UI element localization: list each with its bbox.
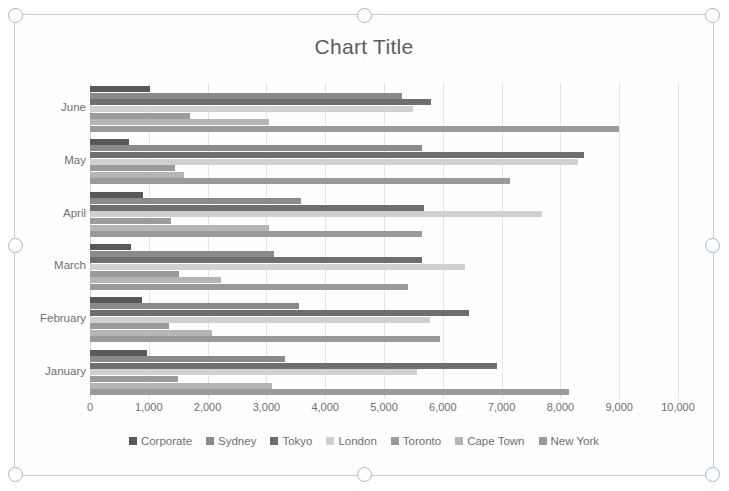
category-label-may: May bbox=[16, 154, 86, 166]
bar-london[interactable] bbox=[90, 369, 417, 375]
value-tick-label: 2,000 bbox=[194, 401, 222, 413]
plot-area[interactable] bbox=[90, 83, 678, 399]
bar-toronto[interactable] bbox=[90, 271, 179, 277]
bar-toronto[interactable] bbox=[90, 113, 190, 119]
bar-tokyo[interactable] bbox=[90, 152, 584, 158]
value-tick-label: 4,000 bbox=[311, 401, 339, 413]
bar-london[interactable] bbox=[90, 211, 542, 217]
resize-handle-bottom-center[interactable] bbox=[357, 467, 372, 482]
bar-tokyo[interactable] bbox=[90, 257, 422, 263]
category-label-march: March bbox=[16, 259, 86, 271]
chart-object[interactable]: Chart Title JuneMayAprilMarchFebruaryJan… bbox=[14, 14, 714, 476]
category-label-january: January bbox=[16, 365, 86, 377]
value-tick-label: 6,000 bbox=[429, 401, 457, 413]
value-axis[interactable]: 01,0002,0003,0004,0005,0006,0007,0008,00… bbox=[90, 401, 678, 421]
bar-new-york[interactable] bbox=[90, 389, 569, 395]
legend-swatch-icon bbox=[326, 437, 334, 445]
legend-swatch-icon bbox=[455, 437, 463, 445]
bar-toronto[interactable] bbox=[90, 376, 178, 382]
legend-label: New York bbox=[551, 435, 600, 447]
bar-new-york[interactable] bbox=[90, 336, 440, 342]
legend-swatch-icon bbox=[539, 437, 547, 445]
resize-handle-top-center[interactable] bbox=[357, 8, 372, 23]
legend-label: Corporate bbox=[141, 435, 192, 447]
legend-label: Cape Town bbox=[467, 435, 524, 447]
bar-new-york[interactable] bbox=[90, 284, 408, 290]
bar-corporate[interactable] bbox=[90, 297, 142, 303]
legend-item-new-york[interactable]: New York bbox=[539, 435, 600, 447]
legend-swatch-icon bbox=[129, 437, 137, 445]
value-tick-label: 10,000 bbox=[661, 401, 695, 413]
value-tick-label: 9,000 bbox=[605, 401, 633, 413]
legend-swatch-icon bbox=[391, 437, 399, 445]
bar-group bbox=[90, 83, 678, 136]
legend-item-toronto[interactable]: Toronto bbox=[391, 435, 441, 447]
bar-london[interactable] bbox=[90, 106, 413, 112]
bar-cape-town[interactable] bbox=[90, 119, 269, 125]
bar-corporate[interactable] bbox=[90, 192, 143, 198]
resize-handle-middle-right[interactable] bbox=[705, 238, 720, 253]
legend-item-corporate[interactable]: Corporate bbox=[129, 435, 192, 447]
bar-sydney[interactable] bbox=[90, 93, 402, 99]
value-tick-label: 5,000 bbox=[370, 401, 398, 413]
category-label-february: February bbox=[16, 312, 86, 324]
bar-cape-town[interactable] bbox=[90, 225, 269, 231]
bar-sydney[interactable] bbox=[90, 251, 274, 257]
bar-toronto[interactable] bbox=[90, 323, 169, 329]
category-axis[interactable]: JuneMayAprilMarchFebruaryJanuary bbox=[15, 83, 86, 399]
bar-london[interactable] bbox=[90, 317, 430, 323]
bar-group bbox=[90, 294, 678, 347]
legend-label: London bbox=[338, 435, 376, 447]
bar-group bbox=[90, 136, 678, 189]
legend-label: Toronto bbox=[403, 435, 441, 447]
bar-corporate[interactable] bbox=[90, 244, 131, 250]
bar-group bbox=[90, 188, 678, 241]
bar-corporate[interactable] bbox=[90, 139, 129, 145]
value-tick-label: 3,000 bbox=[253, 401, 281, 413]
value-tick-label: 7,000 bbox=[488, 401, 516, 413]
category-label-june: June bbox=[16, 101, 86, 113]
legend-item-tokyo[interactable]: Tokyo bbox=[270, 435, 312, 447]
category-label-april: April bbox=[16, 207, 86, 219]
bar-london[interactable] bbox=[90, 159, 578, 165]
bar-corporate[interactable] bbox=[90, 86, 150, 92]
bar-sydney[interactable] bbox=[90, 356, 285, 362]
legend-label: Tokyo bbox=[282, 435, 312, 447]
bar-toronto[interactable] bbox=[90, 165, 175, 171]
bar-new-york[interactable] bbox=[90, 231, 422, 237]
value-tick-label: 0 bbox=[87, 401, 93, 413]
bar-sydney[interactable] bbox=[90, 198, 301, 204]
chart-title[interactable]: Chart Title bbox=[15, 35, 713, 59]
bar-cape-town[interactable] bbox=[90, 172, 184, 178]
resize-handle-bottom-right[interactable] bbox=[705, 467, 720, 482]
legend-swatch-icon bbox=[270, 437, 278, 445]
resize-handle-top-left[interactable] bbox=[8, 8, 23, 23]
bar-tokyo[interactable] bbox=[90, 205, 424, 211]
bar-tokyo[interactable] bbox=[90, 363, 497, 369]
value-tick-label: 1,000 bbox=[135, 401, 163, 413]
bar-toronto[interactable] bbox=[90, 218, 171, 224]
bar-london[interactable] bbox=[90, 264, 465, 270]
bar-sydney[interactable] bbox=[90, 303, 299, 309]
chart-legend[interactable]: CorporateSydneyTokyoLondonTorontoCape To… bbox=[15, 435, 713, 447]
legend-item-cape-town[interactable]: Cape Town bbox=[455, 435, 524, 447]
bar-new-york[interactable] bbox=[90, 178, 510, 184]
bar-cape-town[interactable] bbox=[90, 277, 221, 283]
bar-sydney[interactable] bbox=[90, 145, 422, 151]
resize-handle-top-right[interactable] bbox=[705, 8, 720, 23]
legend-swatch-icon bbox=[206, 437, 214, 445]
legend-label: Sydney bbox=[218, 435, 256, 447]
resize-handle-middle-left[interactable] bbox=[8, 238, 23, 253]
value-tick-label: 8,000 bbox=[547, 401, 575, 413]
bar-tokyo[interactable] bbox=[90, 310, 469, 316]
legend-item-sydney[interactable]: Sydney bbox=[206, 435, 256, 447]
legend-item-london[interactable]: London bbox=[326, 435, 376, 447]
bar-new-york[interactable] bbox=[90, 126, 619, 132]
bar-cape-town[interactable] bbox=[90, 383, 272, 389]
bar-group bbox=[90, 241, 678, 294]
gridline bbox=[678, 83, 679, 399]
bar-cape-town[interactable] bbox=[90, 330, 212, 336]
bar-corporate[interactable] bbox=[90, 350, 147, 356]
bar-tokyo[interactable] bbox=[90, 99, 431, 105]
resize-handle-bottom-left[interactable] bbox=[8, 467, 23, 482]
